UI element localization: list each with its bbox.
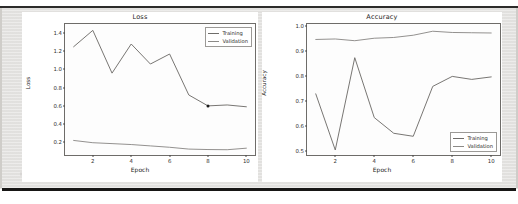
legend-label-validation: Validation [467,143,493,149]
y-axis-label-accuracy: Accuracy [261,63,267,103]
plot-area-accuracy: 0.50.60.70.80.91.0 246810 Training Valid… [306,23,501,156]
chart-panel-accuracy: Accuracy Accuracy 0.50.60.70.80.91.0 246… [262,12,502,182]
marker-dot [206,104,209,107]
y-tick-mark [63,142,65,143]
series-line-validation [74,140,247,149]
x-tick-label: 4 [373,158,376,164]
y-tick-mark [63,87,65,88]
x-tick-mark [452,155,453,157]
y-tick-mark [63,51,65,52]
y-tick-label: 0.6 [53,103,62,109]
y-tick-mark [305,126,307,127]
legend-label-training: Training [467,135,487,141]
y-tick-label: 0.8 [295,73,304,79]
y-tick-label: 1.0 [295,23,304,29]
y-tick-mark [305,26,307,27]
page-rule-top [0,6,518,8]
x-tick-mark [246,155,247,157]
legend-entry-validation: Validation [208,38,248,44]
x-tick-mark [413,155,414,157]
x-tick-label: 10 [243,158,250,164]
x-tick-label: 6 [412,158,415,164]
x-tick-label: 4 [129,158,132,164]
y-tick-label: 0.4 [53,121,62,127]
y-tick-label: 1.2 [53,48,62,54]
page-edge-left [0,8,2,188]
x-tick-mark [207,155,208,157]
y-tick-mark [305,101,307,102]
legend-entry-training: Training [453,135,493,141]
y-tick-label: 0.6 [295,123,304,129]
y-tick-mark [63,69,65,70]
legend-swatch-validation [208,41,219,42]
y-tick-mark [63,33,65,34]
legend-swatch-validation [453,146,464,147]
figure-page: Loss Loss 0.20.40.60.81.01.21.4 246810 T… [0,0,518,204]
legend-loss: Training Validation [205,27,252,47]
x-axis-label-loss: Epoch [22,166,258,173]
y-tick-label: 1.0 [53,66,62,72]
page-rule-bottom [2,188,516,191]
x-tick-mark [491,155,492,157]
chart-title-accuracy: Accuracy [262,13,502,21]
plot-area-loss: 0.20.40.60.81.01.21.4 246810 Training Va… [64,23,256,156]
y-tick-mark [63,124,65,125]
x-tick-label: 8 [206,158,209,164]
x-tick-label: 6 [168,158,171,164]
y-tick-mark [305,51,307,52]
x-tick-label: 2 [334,158,337,164]
chart-panel-loss: Loss Loss 0.20.40.60.81.01.21.4 246810 T… [22,12,258,182]
x-tick-mark [335,155,336,157]
legend-swatch-training [453,138,464,139]
y-axis-label-loss: Loss [25,63,31,103]
y-tick-label: 0.9 [295,48,304,54]
y-tick-label: 0.5 [295,148,304,154]
y-tick-mark [305,151,307,152]
legend-label-validation: Validation [222,38,248,44]
legend-swatch-training [208,33,219,34]
series-line-validation [316,31,491,40]
x-tick-label: 8 [451,158,454,164]
y-tick-label: 0.8 [53,85,62,91]
x-tick-label: 10 [488,158,495,164]
legend-accuracy: Training Validation [450,132,497,152]
x-tick-mark [92,155,93,157]
y-tick-mark [305,76,307,77]
y-tick-label: 0.7 [295,98,304,104]
x-tick-mark [169,155,170,157]
x-tick-mark [374,155,375,157]
x-axis-label-accuracy: Epoch [262,166,502,173]
legend-entry-validation: Validation [453,143,493,149]
x-tick-label: 2 [91,158,94,164]
x-tick-mark [131,155,132,157]
chart-title-loss: Loss [22,13,258,21]
legend-entry-training: Training [208,30,248,36]
y-tick-label: 0.2 [53,139,62,145]
legend-label-training: Training [222,30,242,36]
y-tick-mark [63,105,65,106]
y-tick-label: 1.4 [53,30,62,36]
